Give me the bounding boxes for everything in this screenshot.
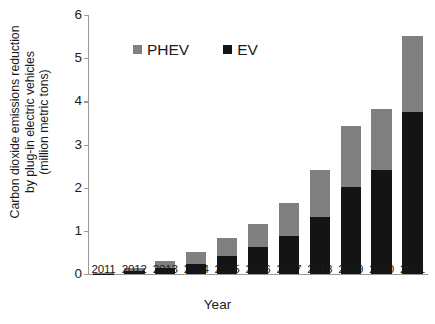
- y-tick-mark: [84, 15, 89, 16]
- y-axis-title: Carbon dioxide emissions reduction by pl…: [0, 7, 60, 237]
- x-tick-label-2019: 2019: [338, 262, 363, 275]
- legend-label-phev: PHEV: [147, 42, 189, 58]
- x-tick-label-2018: 2018: [307, 262, 332, 275]
- bar-2019: [341, 126, 361, 274]
- y-tick-label: 1: [74, 224, 82, 238]
- y-tick-mark: [84, 188, 89, 189]
- y-tick-label: 2: [74, 181, 82, 195]
- y-tick-label: 6: [74, 8, 82, 22]
- bar-segment-phev: [371, 109, 391, 170]
- x-tick-label-2012: 2012: [122, 262, 147, 275]
- bar-segment-phev: [402, 36, 422, 112]
- x-tick-label-2016: 2016: [246, 262, 271, 275]
- bar-segment-ev: [402, 112, 422, 274]
- legend-swatch-ev-icon: [223, 45, 232, 54]
- x-axis-title: Year: [0, 297, 435, 312]
- x-tick-label-2017: 2017: [276, 262, 301, 275]
- bar-2018: [310, 170, 330, 274]
- y-axis-title-line-2: by plug-in electric vehicles: [23, 51, 38, 193]
- y-tick-mark: [84, 145, 89, 146]
- y-axis-title-line-1: Carbon dioxide emissions reduction: [8, 26, 23, 219]
- bar-segment-phev: [341, 126, 361, 187]
- bar-2020: [371, 109, 391, 274]
- x-tick-label-2021: 2021: [400, 262, 425, 275]
- y-tick-label: 3: [74, 138, 82, 152]
- bar-segment-phev: [217, 238, 237, 256]
- x-tick-label-2014: 2014: [184, 262, 209, 275]
- x-tick-label-2013: 2013: [153, 262, 178, 275]
- x-tick-label-2011: 2011: [91, 262, 115, 275]
- y-axis-title-line-3: (million metric tons): [37, 69, 52, 174]
- legend-label-ev: EV: [237, 42, 258, 58]
- bar-segment-phev: [310, 170, 330, 217]
- chart-figure: Carbon dioxide emissions reduction by pl…: [0, 0, 435, 324]
- y-tick-mark: [84, 101, 89, 102]
- bar-2021: [402, 36, 422, 274]
- bar-segment-ev: [371, 170, 391, 274]
- y-tick-mark: [84, 231, 89, 232]
- x-tick-label-2020: 2020: [369, 262, 394, 275]
- y-tick-mark: [84, 58, 89, 59]
- chart-legend: PHEV EV: [133, 42, 258, 58]
- legend-item-phev: PHEV: [133, 42, 189, 58]
- y-tick-label: 5: [74, 51, 82, 65]
- bar-segment-ev: [341, 187, 361, 274]
- bar-segment-phev: [248, 224, 268, 247]
- legend-item-ev: EV: [223, 42, 258, 58]
- y-tick-mark: [84, 274, 89, 275]
- bar-segment-phev: [279, 203, 299, 236]
- y-tick-label: 0: [74, 267, 82, 281]
- legend-swatch-phev-icon: [133, 45, 142, 54]
- y-tick-label: 4: [74, 95, 82, 109]
- y-axis-line: [88, 15, 89, 274]
- x-tick-label-2015: 2015: [215, 262, 240, 275]
